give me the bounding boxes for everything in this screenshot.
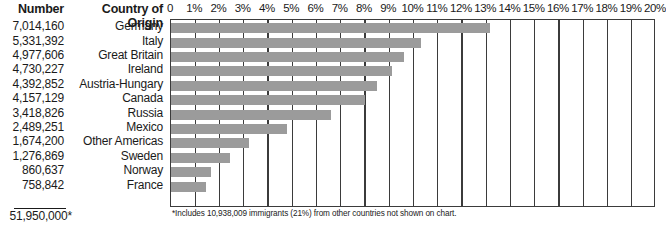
x-axis-tick-20pct: 20%	[644, 2, 666, 14]
x-axis-tick-9pct: 9%	[380, 2, 396, 14]
cell-number: 2,489,251	[0, 120, 64, 134]
bar-track	[171, 64, 653, 78]
bar-track	[171, 21, 653, 35]
cell-country: Sweden	[68, 149, 163, 163]
cell-country: Canada	[68, 91, 163, 105]
x-axis-tick-3pct: 3%	[235, 2, 251, 14]
table-row: 4,730,227Ireland	[0, 62, 163, 76]
x-axis-tick-8pct: 8%	[356, 2, 372, 14]
table-row: 4,392,852Austria-Hungary	[0, 77, 163, 91]
cell-country: Italy	[68, 34, 163, 48]
cell-number: 5,331,392	[0, 34, 64, 48]
bar-ireland	[171, 66, 392, 76]
table-row: 3,418,826Russia	[0, 106, 163, 120]
x-axis-tick-11pct: 11%	[426, 2, 447, 14]
x-axis-tick-18pct: 18%	[596, 2, 618, 14]
cell-country: Norway	[68, 163, 163, 177]
x-axis-tick-12pct: 12%	[450, 2, 472, 14]
cell-number: 4,977,606	[0, 48, 64, 62]
bar-track	[171, 79, 653, 93]
table-row: 5,331,392Italy	[0, 34, 163, 48]
cell-number: 3,418,826	[0, 106, 64, 120]
x-axis-tick-6pct: 6%	[308, 2, 324, 14]
bar-track	[171, 136, 653, 150]
x-axis-tick-7pct: 7%	[332, 2, 348, 14]
bar-austria-hungary	[171, 81, 377, 91]
cell-number: 758,842	[0, 178, 64, 192]
cell-country: Germany	[68, 19, 163, 33]
table-row: 4,977,606Great Britain	[0, 48, 163, 62]
chart-plot-area	[170, 19, 655, 207]
x-axis-tick-labels: 01%2%3%4%5%6%7%8%9%10%11%12%13%14%15%16%…	[0, 0, 661, 19]
x-axis-tick-16pct: 16%	[547, 2, 569, 14]
cell-number: 4,392,852	[0, 77, 64, 91]
cell-number: 1,674,200	[0, 134, 64, 148]
chart-footnote: *Includes 10,938,009 immigrants (21%) fr…	[172, 209, 456, 218]
bar-russia	[171, 110, 331, 120]
cell-number: 7,014,160	[0, 19, 64, 33]
x-axis-tick-4pct: 4%	[259, 2, 275, 14]
bar-track	[171, 151, 653, 165]
x-axis-tick-19pct: 19%	[620, 2, 642, 14]
bar-norway	[171, 167, 211, 177]
total-number: 51,950,000*	[0, 209, 72, 223]
bar-track	[171, 180, 653, 194]
cell-country: Mexico	[68, 120, 163, 134]
x-axis-tick-0: 0	[167, 2, 173, 14]
x-axis-tick-14pct: 14%	[499, 2, 521, 14]
cell-country: France	[68, 178, 163, 192]
bar-mexico	[171, 124, 287, 134]
bar-canada	[171, 95, 365, 105]
x-axis-tick-17pct: 17%	[571, 2, 593, 14]
bar-germany	[171, 23, 490, 33]
cell-country: Ireland	[68, 62, 163, 76]
x-axis-tick-15pct: 15%	[523, 2, 545, 14]
x-axis-tick-2pct: 2%	[211, 2, 227, 14]
x-axis-tick-13pct: 13%	[474, 2, 496, 14]
bar-track	[171, 50, 653, 64]
bar-track	[171, 93, 653, 107]
table-row: 1,674,200Other Americas	[0, 134, 163, 148]
cell-number: 1,276,869	[0, 149, 64, 163]
table-row: 4,157,129Canada	[0, 91, 163, 105]
bar-track	[171, 165, 653, 179]
table-row: 860,637Norway	[0, 163, 163, 177]
bar-other-americas	[171, 138, 249, 148]
cell-number: 4,730,227	[0, 62, 64, 76]
cell-country: Great Britain	[68, 48, 163, 62]
bar-track	[171, 36, 653, 50]
cell-country: Austria-Hungary	[68, 77, 163, 91]
table-row: 1,276,869Sweden	[0, 149, 163, 163]
bar-track	[171, 122, 653, 136]
table-row: 2,489,251Mexico	[0, 120, 163, 134]
bar-sweden	[171, 153, 230, 163]
cell-number: 4,157,129	[0, 91, 64, 105]
cell-country: Other Americas	[68, 134, 163, 148]
x-axis-tick-1pct: 1%	[186, 2, 202, 14]
cell-country: Russia	[68, 106, 163, 120]
bar-great-britain	[171, 52, 404, 62]
data-table: Number Country of Origin 7,014,160German…	[0, 0, 165, 237]
table-row: 758,842France	[0, 178, 163, 192]
bar-italy	[171, 38, 421, 48]
bar-france	[171, 182, 206, 192]
bar-track	[171, 108, 653, 122]
x-axis-tick-10pct: 10%	[402, 2, 424, 14]
cell-number: 860,637	[0, 163, 64, 177]
table-row: 7,014,160Germany	[0, 19, 163, 33]
x-axis-tick-5pct: 5%	[283, 2, 299, 14]
